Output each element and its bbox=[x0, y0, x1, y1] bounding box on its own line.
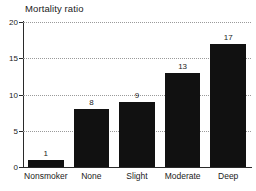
bar-nonsmoker[interactable] bbox=[28, 160, 64, 167]
gridline-20 bbox=[23, 22, 251, 23]
x-tick-label-moderate: Moderate bbox=[165, 171, 201, 181]
bar-moderate[interactable] bbox=[165, 73, 201, 167]
bar-none[interactable] bbox=[74, 109, 110, 167]
bar-value-label-none: 8 bbox=[89, 98, 93, 107]
x-tick-label-deep: Deep bbox=[218, 171, 238, 181]
bar-value-label-slight: 9 bbox=[135, 91, 139, 100]
y-tick-mark-15 bbox=[19, 58, 23, 59]
bar-slight[interactable] bbox=[119, 102, 155, 167]
x-tick-label-nonsmoker: Nonsmoker bbox=[24, 171, 67, 181]
y-tick-label-0: 0 bbox=[2, 163, 18, 172]
y-tick-mark-0 bbox=[19, 167, 23, 168]
x-tick-label-slight: Slight bbox=[126, 171, 147, 181]
mortality-ratio-bar-chart: Mortality ratio 1891317 05101520 Nonsmok… bbox=[0, 0, 256, 191]
y-tick-label-10: 10 bbox=[2, 90, 18, 99]
plot-area: 1891317 bbox=[23, 22, 251, 167]
bar-deep[interactable] bbox=[210, 44, 246, 167]
y-tick-mark-5 bbox=[19, 131, 23, 132]
y-tick-label-20: 20 bbox=[2, 18, 18, 27]
bar-value-label-deep: 17 bbox=[224, 33, 233, 42]
bar-value-label-nonsmoker: 1 bbox=[44, 149, 48, 158]
y-tick-mark-20 bbox=[19, 22, 23, 23]
y-tick-label-15: 15 bbox=[2, 54, 18, 63]
y-tick-mark-10 bbox=[19, 95, 23, 96]
bar-value-label-moderate: 13 bbox=[178, 62, 187, 71]
x-axis-line bbox=[23, 167, 252, 168]
x-tick-label-none: None bbox=[81, 171, 101, 181]
y-tick-label-5: 5 bbox=[2, 126, 18, 135]
chart-title: Mortality ratio bbox=[25, 3, 84, 14]
